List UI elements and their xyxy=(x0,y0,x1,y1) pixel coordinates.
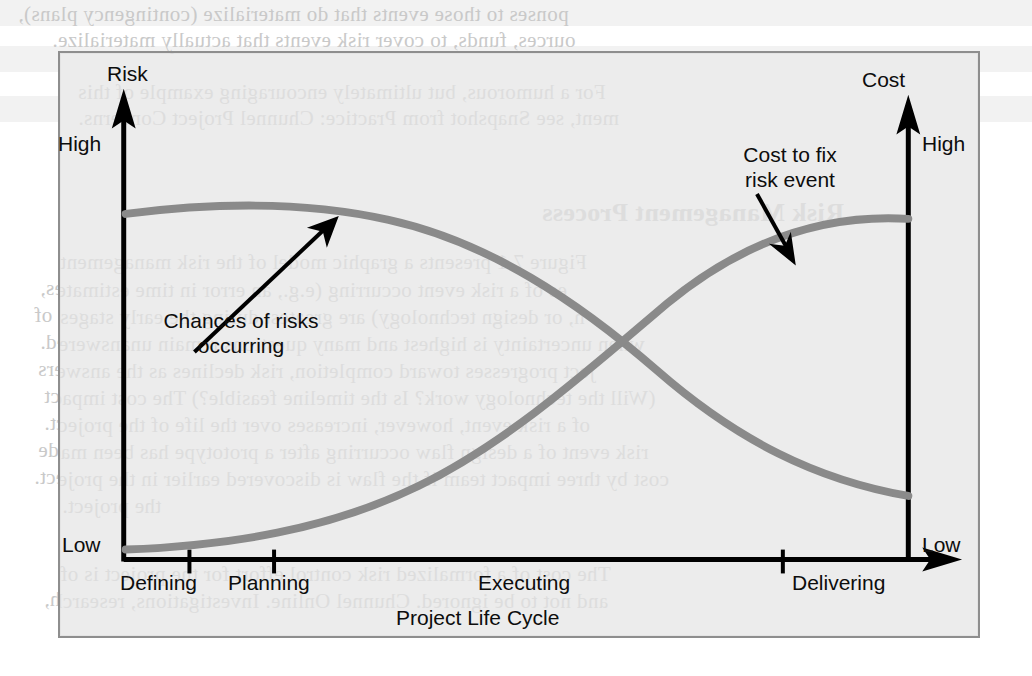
bleed-line: ources, funds, to cover risk events that… xyxy=(52,28,575,53)
scan-band xyxy=(0,0,1032,26)
axis-title-cost: Cost xyxy=(862,67,905,92)
x-label-delivering: Delivering xyxy=(792,570,885,595)
annotation-cost-to-fix: Cost to fix risk event xyxy=(712,142,868,192)
x-label-executing: Executing xyxy=(478,570,570,595)
y-tick-right-low: Low xyxy=(922,532,961,557)
annotation-cost-line1: Cost to fix xyxy=(743,143,836,166)
x-label-defining: Defining xyxy=(120,570,197,595)
bleed-line: ponses to those events that do materiali… xyxy=(18,2,569,27)
annotation-chances-of-risks: Chances of risks occurring xyxy=(146,308,336,358)
y-tick-right-high: High xyxy=(922,131,965,156)
x-axis-title: Project Life Cycle xyxy=(396,605,559,630)
left-axis xyxy=(112,89,136,562)
annotation-cost-line2: risk event xyxy=(745,168,835,191)
annotation-chances-line1: Chances of risks xyxy=(163,309,318,332)
axis-title-risk: Risk xyxy=(107,61,148,86)
y-tick-left-low: Low xyxy=(62,532,101,557)
annotation-chances-line2: occurring xyxy=(198,334,284,357)
y-tick-left-high: High xyxy=(58,131,101,156)
x-label-planning: Planning xyxy=(228,570,310,595)
